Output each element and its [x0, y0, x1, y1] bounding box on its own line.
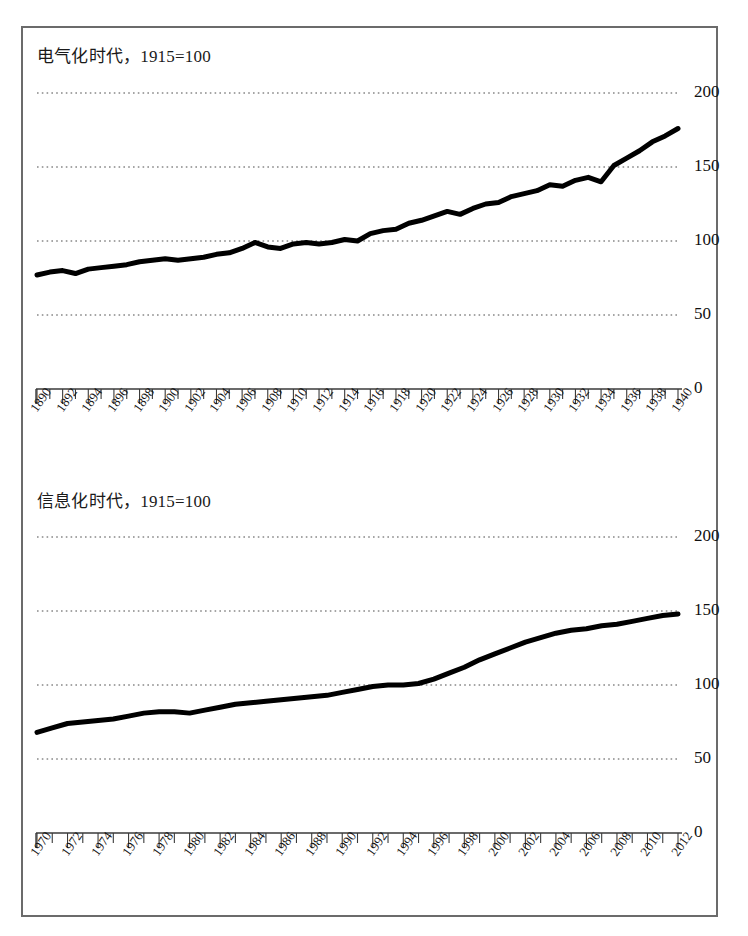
- plot-area-electrification: 2001501005001890189218941896189819001902…: [23, 28, 720, 473]
- chart-panel-electrification: 电气化时代，1915=100 2001501005001890189218941…: [23, 28, 720, 473]
- figure-page: 电气化时代，1915=100 2001501005001890189218941…: [0, 0, 748, 936]
- figure-frame: 电气化时代，1915=100 2001501005001890189218941…: [21, 26, 718, 917]
- y-axis-tick-label: 200: [694, 526, 720, 546]
- data-line: [37, 614, 678, 732]
- data-line: [37, 129, 678, 276]
- y-axis-tick-label: 0: [694, 378, 703, 398]
- y-axis-tick-label: 150: [694, 156, 720, 176]
- y-axis-tick-label: 50: [694, 748, 711, 768]
- y-axis-tick-label: 100: [694, 674, 720, 694]
- y-axis-tick-label: 50: [694, 304, 711, 324]
- y-axis-tick-label: 150: [694, 600, 720, 620]
- chart-panel-information: 信息化时代，1915=100 2001501005001970197219741…: [23, 473, 720, 917]
- y-axis-tick-label: 200: [694, 82, 720, 102]
- y-axis-tick-label: 100: [694, 230, 720, 250]
- plot-area-information: 2001501005001970197219741976197819801982…: [23, 473, 720, 918]
- y-axis-tick-label: 0: [694, 822, 703, 842]
